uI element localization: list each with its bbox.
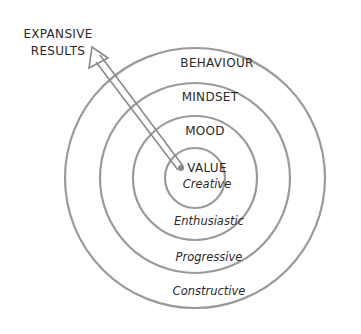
label-behaviour: BEHAVIOUR [180,56,253,70]
label-progressive: Progressive [176,250,243,264]
label-constructive: Constructive [173,284,246,298]
annotation-line-1: EXPANSIVE [23,27,92,41]
label-enthusiastic: Enthusiastic [174,214,245,228]
label-creative: Creative [183,177,231,191]
label-value: VALUE [187,161,227,175]
label-mood: MOOD [185,124,225,138]
label-mindset: MINDSET [182,90,239,104]
concentric-rings-diagram: EXPANSIVE RESULTS BEHAVIOUR MINDSET MOOD… [0,0,361,334]
annotation-line-2: RESULTS [31,44,85,58]
